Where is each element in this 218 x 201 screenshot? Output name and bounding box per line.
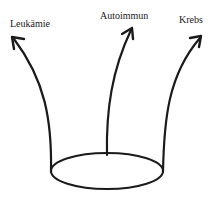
diagram-canvas bbox=[0, 0, 218, 201]
diagram: Leukämie Autoimmun Krebs bbox=[0, 0, 218, 201]
arrow-center-icon bbox=[107, 28, 133, 155]
label-leukaemie: Leukämie bbox=[10, 19, 50, 29]
arrow-left-icon bbox=[12, 37, 51, 172]
label-krebs: Krebs bbox=[179, 15, 203, 25]
label-autoimmun: Autoimmun bbox=[100, 11, 148, 21]
base-ellipse bbox=[51, 153, 163, 189]
arrow-right-icon bbox=[163, 36, 201, 172]
